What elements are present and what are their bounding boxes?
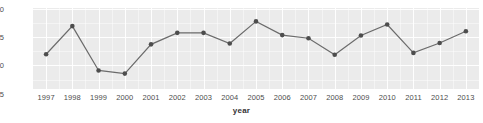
data-point <box>332 52 337 57</box>
x-tick-label: 1999 <box>90 93 107 102</box>
data-point <box>254 19 259 24</box>
data-point <box>306 36 311 41</box>
data-point <box>44 52 49 57</box>
data-point <box>96 68 101 73</box>
x-tick-label: 2005 <box>247 93 264 102</box>
data-point <box>359 33 364 38</box>
x-tick-label: 2000 <box>116 93 133 102</box>
y-tick-label: 14.350 <box>0 61 4 70</box>
x-tick-label: 2007 <box>300 93 317 102</box>
data-point <box>70 24 75 29</box>
y-tick-label: 14.225 <box>0 90 4 99</box>
data-point <box>201 31 206 36</box>
data-point <box>385 22 390 27</box>
data-point <box>464 29 469 34</box>
x-tick-label: 1998 <box>64 93 81 102</box>
series-line <box>46 21 466 73</box>
data-point <box>437 41 442 46</box>
x-tick-label: 2012 <box>431 93 448 102</box>
x-tick-label: 2002 <box>169 93 186 102</box>
series-points <box>44 19 468 76</box>
x-tick-label: 1997 <box>38 93 55 102</box>
data-point <box>123 71 128 76</box>
x-tick-label: 2013 <box>457 93 474 102</box>
x-tick-label: 2006 <box>274 93 291 102</box>
x-axis-title: year <box>0 106 483 115</box>
data-point <box>411 51 416 56</box>
x-tick-label: 2011 <box>405 93 422 102</box>
line-chart: 14.60014.47514.35014.225 199719981999200… <box>0 0 483 123</box>
data-point <box>227 41 232 46</box>
x-tick-label: 2001 <box>143 93 160 102</box>
y-tick-label: 14.475 <box>0 33 4 42</box>
plot-panel <box>33 8 479 89</box>
data-point <box>280 33 285 38</box>
series-layer <box>33 8 479 89</box>
data-point <box>149 42 154 47</box>
data-point <box>175 31 180 36</box>
y-tick-label: 14.600 <box>0 5 4 14</box>
x-tick-label: 2008 <box>326 93 343 102</box>
x-tick-label: 2009 <box>352 93 369 102</box>
x-tick-label: 2004 <box>221 93 238 102</box>
x-tick-label: 2003 <box>195 93 212 102</box>
x-tick-label: 2010 <box>379 93 396 102</box>
